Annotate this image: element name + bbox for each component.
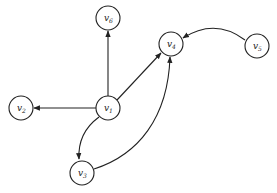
node-v4: v4 — [159, 32, 183, 56]
node-v6: v6 — [96, 6, 120, 30]
node-v5: v5 — [245, 34, 269, 58]
edge-v5-v4 — [183, 28, 245, 40]
node-v2: v2 — [9, 96, 33, 120]
edge-v1-v3 — [79, 117, 99, 159]
node-v3: v3 — [70, 161, 94, 185]
graph-diagram: v6 v4 v5 v2 v1 v3 — [0, 0, 277, 193]
edges — [34, 28, 245, 169]
edge-v1-v4 — [117, 53, 161, 100]
node-v1: v1 — [96, 96, 120, 120]
